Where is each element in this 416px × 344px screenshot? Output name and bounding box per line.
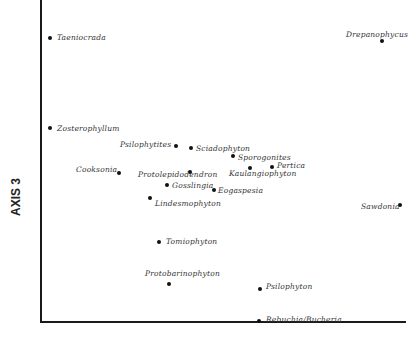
data-point [165,183,169,187]
data-point-label: Rebuchia/Bucheria [266,315,342,324]
y-axis-line [40,0,42,322]
data-point-label: Lindesmophyton [155,199,221,208]
data-point [231,154,235,158]
data-point [212,188,216,192]
data-point [189,146,193,150]
data-point-label: Sawdonia [361,202,400,211]
data-point [157,240,161,244]
data-point [117,171,121,175]
data-point-label: Zosterophyllum [57,124,120,133]
data-point [48,36,52,40]
data-point-label: Cooksonia [76,165,117,174]
data-point [167,282,171,286]
y-axis-label: AXIS 3 [9,167,23,227]
data-point-label: Taeniocrada [57,33,106,42]
data-point-label: Gosslingia [172,181,214,190]
x-axis-line [40,321,406,323]
data-point [257,319,261,323]
data-point [174,144,178,148]
data-point-label: Drepanophycus [346,30,408,39]
data-point-label: Protolepidodendron [138,170,217,179]
data-point-label: Psilophytites [120,140,171,149]
data-point [148,196,152,200]
data-point-label: Sciadophyton [196,144,250,153]
data-point-label: Kaulangiophyton [229,169,297,178]
data-point [258,287,262,291]
data-point [48,126,52,130]
data-point-label: Eogaspesia [218,186,263,195]
data-point [380,39,384,43]
data-point-label: Tomiophyton [166,237,217,246]
data-point-label: Psilophyton [266,282,312,291]
data-point-label: Protobarinophyton [145,269,220,278]
